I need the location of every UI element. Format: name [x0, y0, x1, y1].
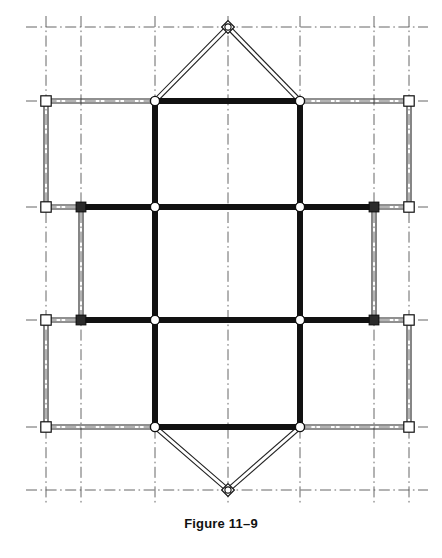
centerline-grid	[26, 16, 428, 505]
joint-level2-inner-right-fixed-icon	[369, 202, 379, 212]
base-brace-left	[154, 425, 230, 491]
joint-roof-left-hinge-icon	[150, 96, 159, 105]
joint-level3-inner-right-fixed-icon	[369, 315, 379, 325]
joint-level3-right-hinge-icon	[295, 315, 304, 324]
support-outer-top-right-support-icon	[404, 96, 414, 106]
joint-level2-inner-left-fixed-icon	[76, 202, 86, 212]
support-outer-bottom-right-support-icon	[404, 422, 414, 432]
figure-container: Figure 11–9	[0, 0, 442, 558]
base-brace-left-edge	[156, 425, 229, 488]
base-brace-right	[227, 425, 302, 491]
apex-joint-bottom-apex-hinge-icon	[225, 487, 231, 493]
roof-brace-left-edge	[156, 28, 229, 102]
joint-level3-inner-left-fixed-icon	[76, 315, 86, 325]
joint-level2-right-hinge-icon	[295, 202, 304, 211]
support-outer-mid-upper-left-support-icon	[41, 202, 51, 212]
support-outer-bottom-left-support-icon	[41, 422, 51, 432]
base-brace-right-edge	[229, 429, 301, 492]
inner-right-mid-post	[372, 207, 376, 320]
joint-level3-left-hinge-icon	[150, 315, 159, 324]
figure-caption: Figure 11–9	[0, 516, 442, 531]
roof-brace-right-edge	[229, 26, 301, 100]
base-brace-left-edge	[154, 429, 227, 492]
base-brace-right-edge	[227, 425, 299, 488]
joint-base-right-hinge-icon	[295, 422, 304, 431]
roof-brace-right	[227, 26, 302, 103]
heavy-members-layer	[81, 101, 374, 427]
apex-joint-top-apex-hinge-icon	[225, 24, 231, 30]
support-outer-mid-lower-left-support-icon	[41, 315, 51, 325]
joint-roof-right-hinge-icon	[295, 96, 304, 105]
support-outer-mid-upper-right-support-icon	[404, 202, 414, 212]
joint-level2-left-hinge-icon	[150, 202, 159, 211]
structural-frame-diagram	[0, 0, 442, 558]
support-outer-top-left-support-icon	[41, 96, 51, 106]
roof-brace-left-edge	[154, 26, 227, 100]
roof-brace-left	[154, 26, 230, 103]
light-members-layer	[44, 26, 411, 492]
joint-base-left-hinge-icon	[150, 422, 159, 431]
support-outer-mid-lower-right-support-icon	[404, 315, 414, 325]
inner-left-mid-post	[79, 207, 83, 320]
roof-brace-right-edge	[227, 28, 299, 102]
